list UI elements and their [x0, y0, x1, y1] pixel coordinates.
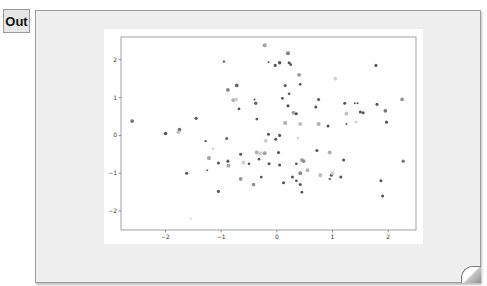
- scatter-point: [277, 151, 280, 154]
- scatter-point: [297, 137, 299, 139]
- scatter-point: [176, 130, 180, 134]
- scatter-point: [362, 111, 365, 114]
- scatter-point: [239, 177, 243, 181]
- scatter-point: [239, 153, 242, 156]
- scatter-point: [330, 171, 334, 175]
- scatter-point: [223, 60, 225, 62]
- scatter-point: [263, 151, 267, 155]
- scatter-point: [295, 179, 298, 182]
- scatter-figure: −2−1012−2−1012: [104, 29, 423, 244]
- x-tick-label: 0: [275, 233, 279, 240]
- x-tick-label: 2: [386, 233, 390, 240]
- scatter-point: [267, 133, 270, 136]
- scatter-point: [195, 117, 198, 120]
- scatter-point: [258, 158, 261, 161]
- scatter-point: [217, 161, 220, 164]
- scatter-point: [248, 162, 251, 165]
- scatter-point: [288, 92, 291, 95]
- scatter-point: [345, 123, 347, 125]
- scatter-point: [241, 161, 245, 165]
- scatter-point: [254, 102, 257, 105]
- scatter-point: [400, 98, 404, 102]
- scatter-point: [329, 178, 331, 180]
- y-tick-label: 2: [113, 56, 117, 63]
- y-tick-label: −1: [108, 169, 117, 176]
- scatter-point: [327, 124, 330, 127]
- scatter-point: [286, 51, 290, 55]
- scatter-point: [297, 73, 301, 77]
- scatter-point: [381, 194, 384, 197]
- scatter-point: [255, 118, 258, 121]
- scatter-point: [206, 169, 208, 171]
- scatter-point: [278, 134, 281, 137]
- scatter-point: [189, 217, 192, 220]
- scatter-point: [318, 173, 322, 177]
- scatter-point: [376, 103, 379, 106]
- scatter-point: [302, 159, 306, 163]
- scatter-point: [291, 175, 294, 178]
- x-tick-label: −2: [161, 233, 170, 240]
- scatter-point: [278, 61, 281, 64]
- scatter-point: [299, 183, 302, 186]
- scatter-point: [339, 175, 342, 178]
- y-tick-label: 1: [113, 94, 117, 101]
- output-card: −2−1012−2−1012: [35, 10, 481, 283]
- scatter-point: [260, 176, 263, 179]
- x-tick-label: −1: [217, 233, 226, 240]
- scatter-point: [295, 162, 298, 165]
- scatter-point: [384, 109, 388, 113]
- scatter-point: [185, 172, 188, 175]
- scatter-point: [306, 168, 310, 172]
- scatter-point: [354, 102, 356, 104]
- scatter-point: [226, 88, 230, 92]
- scatter-point: [359, 110, 362, 113]
- scatter-point: [317, 122, 321, 126]
- scatter-point: [374, 64, 377, 67]
- scatter-point: [278, 163, 281, 166]
- scatter-plot: −2−1012−2−1012: [104, 29, 423, 244]
- scatter-point: [289, 63, 292, 66]
- scatter-point: [252, 183, 256, 187]
- scatter-point: [217, 190, 220, 193]
- scatter-point: [385, 121, 388, 124]
- scatter-point: [258, 151, 262, 155]
- scatter-point: [401, 159, 404, 162]
- scatter-point: [204, 140, 206, 142]
- scatter-point: [328, 150, 332, 154]
- scatter-point: [227, 164, 231, 168]
- scatter-point: [379, 179, 382, 182]
- scatter-point: [274, 138, 277, 141]
- scatter-point: [355, 121, 358, 124]
- y-tick-label: −2: [108, 207, 117, 214]
- scatter-point: [333, 77, 337, 81]
- scatter-point: [357, 102, 359, 104]
- scatter-point: [314, 105, 317, 108]
- scatter-point: [267, 61, 269, 63]
- scatter-point: [317, 98, 320, 101]
- scatter-point: [264, 139, 268, 143]
- page-curl-icon: [461, 266, 481, 283]
- scatter-point: [263, 43, 267, 47]
- scatter-point: [212, 147, 214, 149]
- scatter-point: [282, 181, 285, 184]
- scatter-point: [315, 149, 318, 152]
- scatter-point: [207, 156, 211, 160]
- scatter-point: [281, 97, 284, 100]
- scatter-point: [301, 191, 304, 194]
- scatter-point: [234, 98, 238, 102]
- scatter-point: [164, 132, 167, 135]
- output-prompt-label: Out: [3, 9, 30, 33]
- scatter-point: [342, 158, 345, 161]
- scatter-point: [283, 121, 287, 125]
- scatter-point: [298, 122, 302, 126]
- scatter-point: [130, 119, 134, 123]
- x-tick-label: 1: [331, 233, 335, 240]
- scatter-point: [295, 112, 298, 115]
- scatter-point: [299, 83, 302, 86]
- scatter-point: [226, 160, 229, 163]
- scatter-point: [286, 104, 289, 107]
- scatter-point: [344, 112, 348, 116]
- scatter-point: [254, 98, 256, 100]
- scatter-point: [268, 162, 271, 165]
- y-tick-label: 0: [113, 131, 117, 138]
